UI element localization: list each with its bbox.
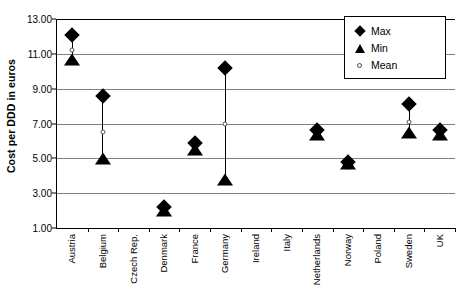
legend-diamond-icon <box>353 24 369 38</box>
x-axis-tick-mark <box>88 228 89 232</box>
y-axis-tick-label: 3.00 <box>33 188 52 199</box>
mean-marker <box>70 48 75 53</box>
y-axis-tick-label: 5.00 <box>33 153 52 164</box>
legend-item[interactable]: Mean <box>353 56 439 73</box>
legend-item[interactable]: Max <box>353 22 439 39</box>
x-axis-tick-mark <box>179 228 180 232</box>
x-axis-tick-label: Italy <box>280 234 291 251</box>
max-marker <box>65 27 81 43</box>
x-axis-tick-mark <box>241 228 242 232</box>
x-axis-tick-mark <box>394 228 395 232</box>
y-axis-title: Cost per DDD in euros <box>0 0 22 232</box>
x-axis-tick-mark <box>363 228 364 232</box>
x-axis-tick-label: Poland <box>372 234 383 264</box>
range-line <box>102 96 103 160</box>
mean-marker <box>407 119 412 124</box>
legend-circle-icon <box>353 58 369 72</box>
y-axis-tick-label: 7.00 <box>33 118 52 129</box>
gridline <box>57 89 455 90</box>
gridline <box>57 124 455 125</box>
y-axis-title-text: Cost per DDD in euros <box>5 59 17 173</box>
legend-item-label: Mean <box>371 59 397 71</box>
x-axis-tick-mark <box>149 228 150 232</box>
chart-container: Cost per DDD in euros 13.0011.009.007.00… <box>0 0 464 302</box>
legend-circle-icon-glyph <box>357 63 362 68</box>
chart-legend: MaxMinMean <box>344 16 446 79</box>
x-axis-tick-mark <box>302 228 303 232</box>
y-axis-tick-labels: 13.0011.009.007.005.003.001.00 <box>20 0 56 240</box>
legend-triangle-icon <box>353 41 369 55</box>
legend-triangle-icon-glyph <box>355 44 365 53</box>
y-axis-tick-label: 13.00 <box>27 14 52 25</box>
x-axis-tick-mark <box>424 228 425 232</box>
legend-item-label: Min <box>371 42 388 54</box>
x-axis-tick-label: France <box>188 234 199 264</box>
x-axis-tick-label: Denmark <box>158 234 169 273</box>
mean-marker <box>223 121 228 126</box>
x-axis-tick-mark <box>271 228 272 232</box>
min-marker <box>217 174 233 186</box>
x-axis-tick-label: Netherlands <box>311 234 322 285</box>
y-axis-tick-label: 11.00 <box>28 48 52 59</box>
max-marker <box>95 88 111 104</box>
x-axis-tick-labels: AustriaBelgiumCzech Rep.DenmarkFranceGer… <box>56 234 454 302</box>
x-axis-tick-label: Austria <box>66 234 77 264</box>
legend-item-label: Max <box>371 25 391 37</box>
min-marker <box>64 53 80 65</box>
x-axis-tick-label: Sweden <box>403 234 414 268</box>
x-axis-tick-label: Germany <box>219 234 230 273</box>
gridline <box>57 193 455 194</box>
mean-marker <box>100 130 105 135</box>
y-axis-tick-label: 1.00 <box>33 223 52 234</box>
x-axis-tick-mark <box>455 228 456 232</box>
x-axis-tick-mark <box>210 228 211 232</box>
min-marker <box>401 126 417 138</box>
x-axis-tick-mark <box>333 228 334 232</box>
max-marker <box>218 60 234 76</box>
legend-diamond-icon-glyph <box>354 25 365 36</box>
max-marker <box>401 97 417 113</box>
x-axis-tick-label: Ireland <box>250 234 261 263</box>
x-axis-tick-label: Czech Rep. <box>127 234 138 284</box>
min-marker <box>95 153 111 165</box>
x-axis-tick-label: Belgium <box>96 234 107 268</box>
legend-item[interactable]: Min <box>353 39 439 56</box>
y-axis-tick-label: 9.00 <box>33 83 52 94</box>
gridline <box>57 158 455 159</box>
x-axis-tick-label: UK <box>433 234 444 247</box>
x-axis-tick-mark <box>118 228 119 232</box>
x-axis-tick-label: Norway <box>341 234 352 266</box>
